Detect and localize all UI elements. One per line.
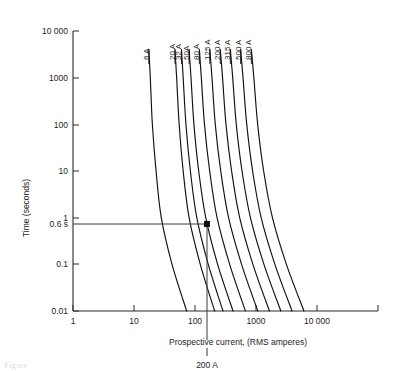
y-axis-title: Time (seconds) xyxy=(21,179,31,237)
curve-20a xyxy=(175,50,215,311)
y-tick-label-10000: 10 000 xyxy=(42,26,68,36)
x-axis-title: Prospective current, (RMS amperes) xyxy=(169,337,307,347)
curves-group xyxy=(149,50,304,311)
curve-label-315a: 315 A xyxy=(223,39,232,60)
figure-caption: Figure xyxy=(4,360,28,370)
x-tick-label-10: 10 xyxy=(129,316,139,326)
y-axis-ticks xyxy=(73,31,79,311)
axis-group xyxy=(73,31,378,311)
y-tick-label-0.1: 0.1 xyxy=(56,259,68,269)
x-tick-label-1000: 1000 xyxy=(247,316,266,326)
y-tick-label-10: 10 xyxy=(59,166,69,176)
x-tick-label-10000: 10 000 xyxy=(304,316,330,326)
x-axis-ticks xyxy=(73,305,378,311)
curve-label-80a: 80 A xyxy=(192,43,201,60)
curve-label-50a: 50A xyxy=(182,45,191,60)
annotation-group xyxy=(73,221,210,356)
time-current-characteristic-chart: 10 000 1000 100 10 1 0.1 0.01 1 10 100 1… xyxy=(0,0,394,371)
chart-canvas: 10 000 1000 100 10 1 0.1 0.01 1 10 100 1… xyxy=(0,0,394,371)
operating-point-marker xyxy=(204,221,210,227)
y-tick-label-1000: 1000 xyxy=(49,73,68,83)
x-tick-label-1: 1 xyxy=(71,316,76,326)
annotation-time-label: 0.6 s xyxy=(50,219,68,229)
curve-label-6a: 6 A xyxy=(142,48,151,60)
curve-label-125a: 125 A xyxy=(203,39,212,60)
curve-label-500a: 500 A xyxy=(234,39,243,60)
curve-200a xyxy=(220,50,269,311)
curve-label-200a: 200 A xyxy=(213,39,222,60)
curve-label-800a: 800 A xyxy=(244,39,253,60)
y-tick-label-100: 100 xyxy=(54,120,68,130)
x-tick-label-100: 100 xyxy=(188,316,202,326)
curve-6a xyxy=(149,50,187,311)
y-tick-label-0.01: 0.01 xyxy=(51,306,68,316)
annotation-current-label: 200 A xyxy=(196,360,218,370)
curve-labels-group: 6 A20 A32 A50A80 A125 A200 A315 A500 A80… xyxy=(142,39,254,60)
